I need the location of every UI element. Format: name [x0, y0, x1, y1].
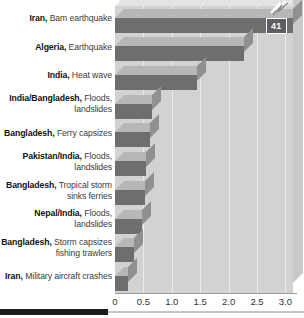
bar-row [115, 236, 293, 265]
x-tick-label: 2.5 [250, 296, 263, 308]
bar [115, 46, 244, 61]
bar [115, 75, 197, 90]
category-label-country: India, [47, 70, 69, 80]
bar-front-face [115, 132, 150, 147]
bar-value-label: 41 [266, 18, 287, 34]
bar-front-face [115, 104, 152, 119]
category-label-detail: Storm capsizes fishing trawlers [52, 237, 112, 258]
category-label: Bangladesh, Storm capsizes fishing trawl… [0, 237, 112, 259]
category-label-country: India/Bangladesh, [9, 93, 82, 103]
footer-rule-dark [0, 309, 108, 315]
category-label: Pakistan/India, Floods, landslides [0, 151, 112, 173]
x-tick-label: 0 [112, 296, 117, 308]
bar [115, 190, 145, 205]
category-label: Nepal/India, Floods, landslides [0, 208, 112, 230]
x-tick-label: 3.0 [279, 296, 292, 308]
plot-area: 41 [115, 6, 293, 293]
bar [115, 104, 152, 119]
category-label: India, Heat wave [0, 70, 112, 81]
bar-front-face [115, 219, 142, 234]
category-labels: Iran, Bam earthquakeAlgeria, EarthquakeI… [0, 6, 112, 293]
category-label-detail: Ferry capsizes [55, 128, 112, 138]
bar [115, 247, 134, 262]
category-label-detail: Military aircraft crashes [23, 271, 112, 281]
category-label-country: Bangladesh, [1, 237, 52, 247]
bar-front-face [115, 190, 145, 205]
x-tick-label: 1.5 [194, 296, 207, 308]
x-tick-label: 2.0 [222, 296, 235, 308]
category-label-detail: Earthquake [66, 42, 112, 52]
x-axis-line [115, 293, 297, 294]
footer-rule-light [108, 311, 304, 313]
category-label: Algeria, Earthquake [0, 42, 112, 53]
bar-front-face [115, 276, 128, 291]
category-label-country: Pakistan/India, [23, 151, 82, 161]
bar-front-face [115, 46, 244, 61]
bar-row [115, 264, 293, 293]
category-label-country: Bangladesh, [6, 180, 57, 190]
bar-chart-figure: 41 Iran, Bam earthquakeAlgeria, Earthqua… [0, 0, 304, 318]
x-tick-label: 1.0 [165, 296, 178, 308]
category-label: Iran, Military aircraft crashes [0, 271, 112, 282]
bar-front-face [115, 247, 134, 262]
x-tick-label: 0.5 [137, 296, 150, 308]
bar-row [115, 150, 293, 179]
axis-break-icon [269, 0, 291, 20]
category-label-country: Nepal/India, [34, 208, 82, 218]
plot-panel-right-bevel [293, 0, 303, 283]
category-label: Iran, Bam earthquake [0, 13, 112, 24]
bar [115, 132, 150, 147]
bar [115, 276, 128, 291]
category-label-country: Iran, [5, 271, 23, 281]
bar [115, 161, 146, 176]
bar-row [115, 121, 293, 150]
category-label-country: Iran, [29, 13, 47, 23]
category-label: India/Bangladesh, Floods, landslides [0, 93, 112, 115]
bar-front-face [115, 161, 146, 176]
category-label: Bangladesh, Ferry capsizes [0, 128, 112, 139]
bar-row [115, 92, 293, 121]
bar-front-face [115, 75, 197, 90]
category-label-detail: Tropical storm sinks ferries [57, 180, 112, 201]
bar-row [115, 178, 293, 207]
bar-top-face [115, 37, 253, 46]
category-label-detail: Heat wave [70, 70, 112, 80]
category-label-country: Bangladesh, [4, 128, 55, 138]
bar-top-face [115, 66, 206, 75]
bar [115, 219, 142, 234]
category-label-country: Algeria, [35, 42, 66, 52]
bar-row [115, 63, 293, 92]
category-label: Bangladesh, Tropical storm sinks ferries [0, 180, 112, 202]
category-label-detail: Bam earthquake [47, 13, 112, 23]
